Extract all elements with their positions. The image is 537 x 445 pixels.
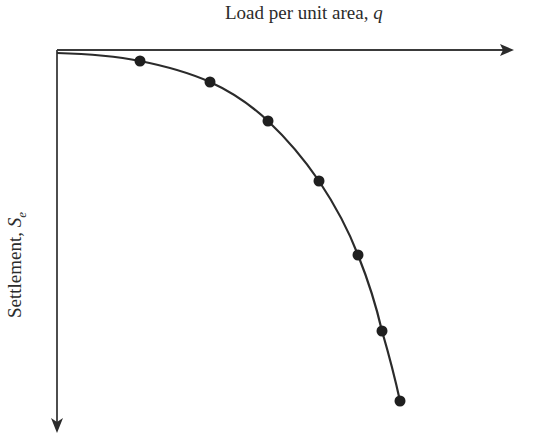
data-point-marker xyxy=(377,326,388,337)
data-point-marker xyxy=(263,116,274,127)
data-point-marker xyxy=(314,176,325,187)
y-axis-label: Settlement, Se xyxy=(4,212,30,318)
settlement-curve xyxy=(57,53,400,401)
data-point-marker xyxy=(205,77,216,88)
data-point-marker xyxy=(135,56,146,67)
load-settlement-diagram xyxy=(0,0,537,445)
x-axis-label: Load per unit area, q xyxy=(225,2,383,24)
data-markers xyxy=(135,56,406,407)
data-point-marker xyxy=(395,396,406,407)
data-point-marker xyxy=(353,250,364,261)
